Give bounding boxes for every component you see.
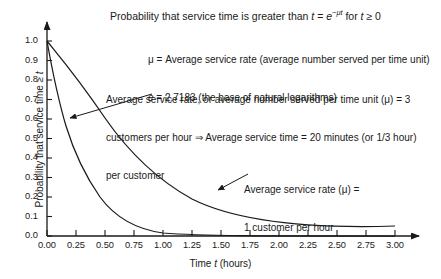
x-tick-label-3.00: 3.00 (378, 240, 412, 250)
chart-title-tail: ≥ 0 (364, 10, 381, 22)
chart-title: Probability that service time is greater… (110, 8, 381, 23)
chart-title-exponent: −μt (332, 8, 342, 17)
annotation-mu-1-line-2: 1 customer per hour (244, 222, 359, 235)
x-axis-title: Time t (hours) (0, 258, 441, 271)
chart-title-lead: Probability that service time is greater… (110, 10, 311, 22)
annotation-mu-3-line-1: Average service rate, or average number … (106, 94, 416, 107)
y-axis-ticks (47, 41, 52, 236)
exponential-service-time-chart: Probability that service time is greater… (0, 0, 441, 279)
y-axis-title-var: t (34, 71, 45, 74)
y-axis-title-pre: Probability that service time ≥ (34, 74, 45, 207)
annotation-mu-1-line-1: Average service rate (μ) = (244, 184, 359, 197)
y-axis-title: Probability that service time ≥ t (34, 39, 47, 239)
x-axis-title-post: (hours) (217, 258, 251, 269)
chart-title-mid: for (343, 10, 361, 22)
chart-title-equals: = (314, 10, 326, 22)
annotation-mu-3-line-2: customers per hour ⇒ Average service tim… (106, 132, 416, 145)
x-axis-title-pre: Time (190, 258, 215, 269)
definition-mu-line: μ = Average service rate (average number… (148, 54, 430, 67)
mu-definition-text: = Average service rate (average number s… (154, 54, 430, 65)
